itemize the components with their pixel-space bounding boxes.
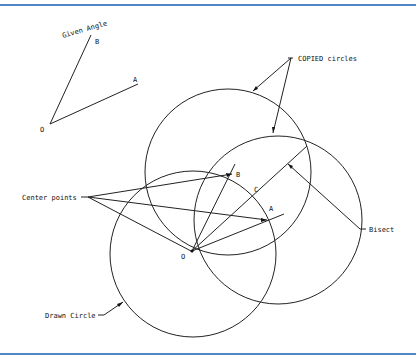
point-b-label: B: [236, 171, 240, 179]
ray-oa: [192, 214, 284, 251]
drawn-circle-callout: Drawn Circle: [45, 302, 123, 320]
given-vertex-label: O: [40, 126, 44, 134]
copied-circles-label: COPIED circles: [298, 55, 357, 63]
copied-circle-b: [145, 89, 311, 255]
given-ray-oa: [50, 84, 138, 124]
copied-circles-callout: COPIED circles: [253, 55, 357, 133]
drawn-circle: [110, 171, 276, 337]
construction-rays: [190, 146, 307, 253]
arrowhead-icon: [117, 302, 123, 307]
given-angle-label: Given Angle: [61, 19, 108, 39]
given-angle: Given Angle B A O: [40, 19, 138, 134]
copied-circle-a: [194, 136, 362, 304]
bisector-line: [192, 146, 307, 251]
point-a-label: A: [269, 205, 274, 213]
given-ray-ob: [50, 35, 91, 124]
vertex-o-label: O: [181, 253, 185, 261]
given-point-a-label: A: [133, 76, 138, 84]
drawn-circle-label: Drawn Circle: [45, 312, 96, 320]
bisect-label: Bisect: [369, 226, 394, 234]
point-c-label: C: [254, 186, 258, 194]
center-points-callout: Center points: [22, 173, 267, 251]
construction-diagram: Given Angle B A O O B A C COPIED circles…: [0, 0, 416, 360]
center-points-label: Center points: [22, 194, 77, 202]
bisect-callout: Bisect: [288, 164, 394, 234]
given-point-b-label: B: [95, 38, 99, 46]
